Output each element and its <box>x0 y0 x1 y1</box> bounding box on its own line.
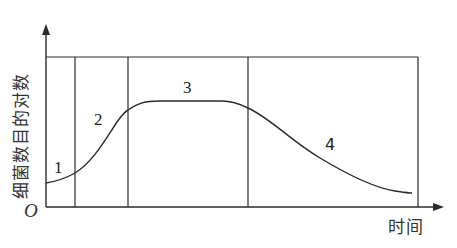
phase-label-2: 2 <box>94 110 103 130</box>
x-axis-arrow-icon <box>433 203 444 211</box>
origin-label: O <box>24 200 38 222</box>
y-axis-label-text: 细菌数目的对数 <box>7 72 32 198</box>
y-axis-arrow-icon <box>42 24 50 35</box>
growth-curve-chart <box>0 0 457 248</box>
phase-label-1: 1 <box>54 158 63 178</box>
phase-label-4: 4 <box>325 135 335 154</box>
phase-label-3: 3 <box>183 78 192 98</box>
x-axis-label: 时间 <box>388 213 424 238</box>
y-axis-label: 细菌数目的对数 <box>6 70 32 200</box>
